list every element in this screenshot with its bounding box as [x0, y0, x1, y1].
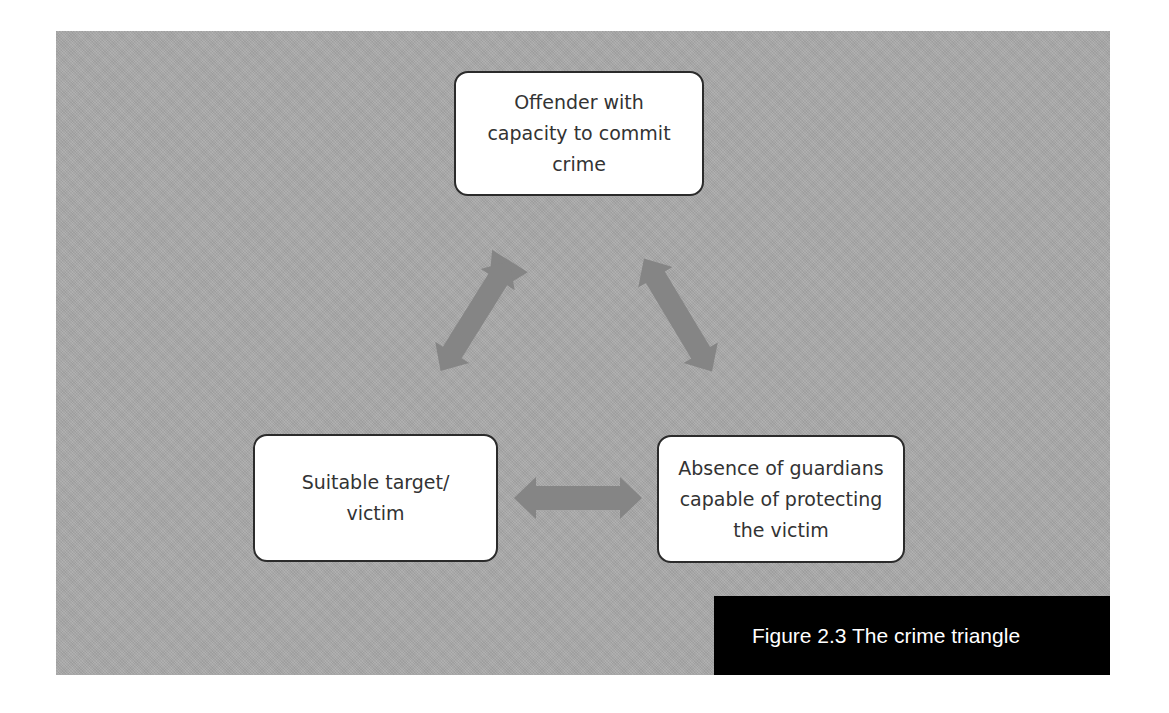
node-target-label: Suitable target/ victim: [302, 467, 450, 529]
figure-caption: Figure 2.3 The crime triangle: [714, 596, 1110, 675]
node-offender: Offender with capacity to commit crime: [454, 71, 704, 196]
node-absent-guardian: Absence of guardians capable of protecti…: [657, 435, 905, 563]
node-suitable-target: Suitable target/ victim: [253, 434, 498, 562]
node-offender-label: Offender with capacity to commit crime: [487, 87, 670, 180]
node-guardian-label: Absence of guardians capable of protecti…: [678, 453, 883, 546]
figure-caption-text: Figure 2.3 The crime triangle: [752, 624, 1020, 648]
